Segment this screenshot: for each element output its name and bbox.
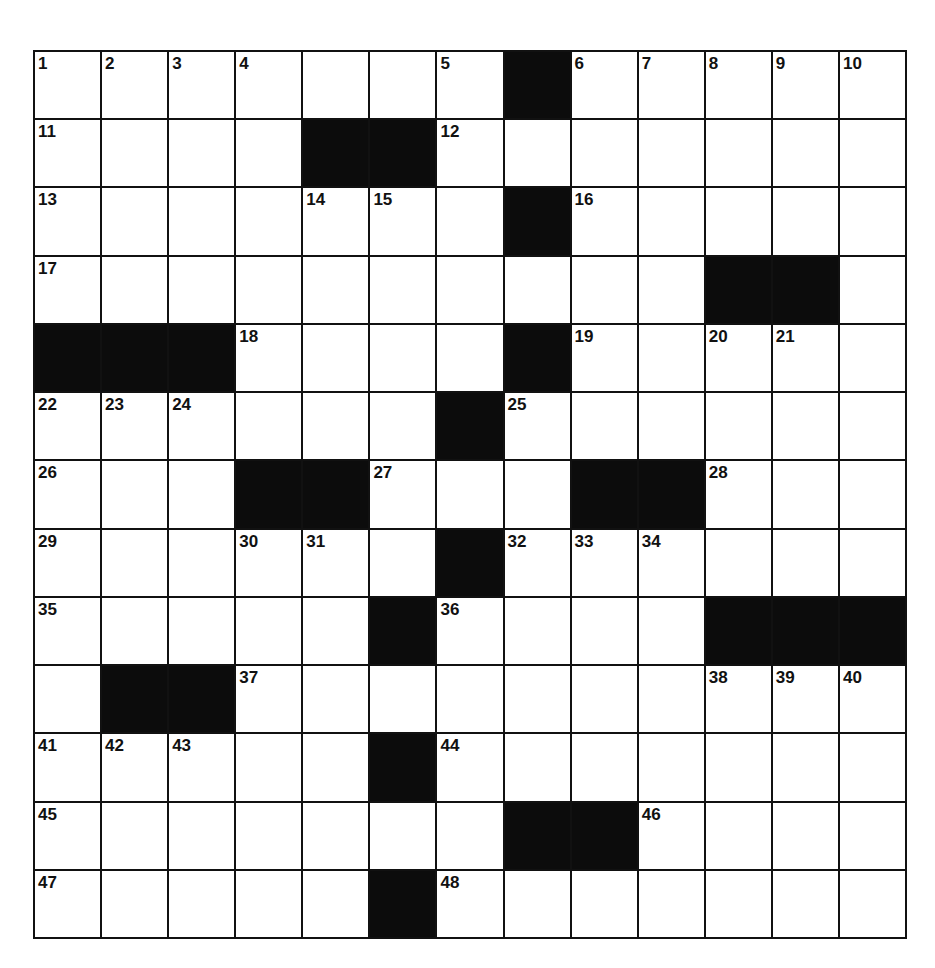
crossword-cell[interactable]: 33: [572, 530, 637, 596]
crossword-cell[interactable]: [773, 530, 838, 596]
crossword-cell[interactable]: [236, 871, 301, 937]
crossword-cell[interactable]: 18: [236, 325, 301, 391]
crossword-cell[interactable]: 24: [169, 393, 234, 459]
crossword-cell[interactable]: [437, 188, 502, 254]
crossword-cell[interactable]: [572, 666, 637, 732]
crossword-cell[interactable]: 20: [706, 325, 771, 391]
crossword-cell[interactable]: [102, 598, 167, 664]
crossword-cell[interactable]: 38: [706, 666, 771, 732]
crossword-cell[interactable]: 44: [437, 734, 502, 800]
crossword-cell[interactable]: [505, 257, 570, 323]
crossword-cell[interactable]: [505, 598, 570, 664]
crossword-cell[interactable]: [706, 803, 771, 869]
crossword-cell[interactable]: [102, 188, 167, 254]
crossword-cell[interactable]: [236, 393, 301, 459]
crossword-cell[interactable]: 48: [437, 871, 502, 937]
crossword-cell[interactable]: [303, 666, 368, 732]
crossword-cell[interactable]: [505, 461, 570, 527]
crossword-cell[interactable]: [706, 530, 771, 596]
crossword-cell[interactable]: [840, 188, 905, 254]
crossword-cell[interactable]: 14: [303, 188, 368, 254]
crossword-cell[interactable]: 39: [773, 666, 838, 732]
crossword-cell[interactable]: 6: [572, 52, 637, 118]
crossword-cell[interactable]: 35: [35, 598, 100, 664]
crossword-cell[interactable]: 15: [370, 188, 435, 254]
crossword-cell[interactable]: [236, 598, 301, 664]
crossword-cell[interactable]: [840, 871, 905, 937]
crossword-cell[interactable]: [35, 666, 100, 732]
crossword-cell[interactable]: [303, 734, 368, 800]
crossword-cell[interactable]: 3: [169, 52, 234, 118]
crossword-cell[interactable]: [102, 461, 167, 527]
crossword-cell[interactable]: [572, 120, 637, 186]
crossword-cell[interactable]: [437, 325, 502, 391]
crossword-cell[interactable]: [437, 666, 502, 732]
crossword-cell[interactable]: 42: [102, 734, 167, 800]
crossword-cell[interactable]: [639, 871, 704, 937]
crossword-cell[interactable]: [169, 803, 234, 869]
crossword-cell[interactable]: 28: [706, 461, 771, 527]
crossword-cell[interactable]: [370, 257, 435, 323]
crossword-cell[interactable]: [572, 871, 637, 937]
crossword-cell[interactable]: 11: [35, 120, 100, 186]
crossword-cell[interactable]: [303, 257, 368, 323]
crossword-cell[interactable]: [303, 325, 368, 391]
crossword-cell[interactable]: [639, 393, 704, 459]
crossword-cell[interactable]: 9: [773, 52, 838, 118]
crossword-cell[interactable]: [370, 325, 435, 391]
crossword-cell[interactable]: 13: [35, 188, 100, 254]
crossword-cell[interactable]: [370, 803, 435, 869]
crossword-cell[interactable]: [572, 598, 637, 664]
crossword-cell[interactable]: 30: [236, 530, 301, 596]
crossword-cell[interactable]: [169, 530, 234, 596]
crossword-cell[interactable]: 46: [639, 803, 704, 869]
crossword-cell[interactable]: 12: [437, 120, 502, 186]
crossword-cell[interactable]: 5: [437, 52, 502, 118]
crossword-cell[interactable]: [236, 120, 301, 186]
crossword-cell[interactable]: 41: [35, 734, 100, 800]
crossword-cell[interactable]: 19: [572, 325, 637, 391]
crossword-cell[interactable]: [773, 461, 838, 527]
crossword-cell[interactable]: [169, 257, 234, 323]
crossword-cell[interactable]: [840, 393, 905, 459]
crossword-cell[interactable]: [505, 734, 570, 800]
crossword-cell[interactable]: [236, 257, 301, 323]
crossword-cell[interactable]: [505, 666, 570, 732]
crossword-cell[interactable]: [437, 257, 502, 323]
crossword-cell[interactable]: [706, 188, 771, 254]
crossword-cell[interactable]: [773, 734, 838, 800]
crossword-cell[interactable]: [303, 803, 368, 869]
crossword-cell[interactable]: [437, 803, 502, 869]
crossword-cell[interactable]: [840, 120, 905, 186]
crossword-cell[interactable]: [639, 325, 704, 391]
crossword-cell[interactable]: [773, 120, 838, 186]
crossword-cell[interactable]: [370, 393, 435, 459]
crossword-cell[interactable]: [102, 120, 167, 186]
crossword-cell[interactable]: 45: [35, 803, 100, 869]
crossword-cell[interactable]: [303, 871, 368, 937]
crossword-cell[interactable]: 4: [236, 52, 301, 118]
crossword-cell[interactable]: 22: [35, 393, 100, 459]
crossword-cell[interactable]: [169, 598, 234, 664]
crossword-cell[interactable]: 16: [572, 188, 637, 254]
crossword-cell[interactable]: [303, 52, 368, 118]
crossword-cell[interactable]: [840, 530, 905, 596]
crossword-cell[interactable]: [706, 734, 771, 800]
crossword-cell[interactable]: [505, 120, 570, 186]
crossword-cell[interactable]: 47: [35, 871, 100, 937]
crossword-cell[interactable]: 26: [35, 461, 100, 527]
crossword-cell[interactable]: [773, 393, 838, 459]
crossword-cell[interactable]: 31: [303, 530, 368, 596]
crossword-cell[interactable]: [706, 120, 771, 186]
crossword-cell[interactable]: [773, 803, 838, 869]
crossword-cell[interactable]: [169, 871, 234, 937]
crossword-cell[interactable]: 7: [639, 52, 704, 118]
crossword-cell[interactable]: [840, 325, 905, 391]
crossword-cell[interactable]: 1: [35, 52, 100, 118]
crossword-cell[interactable]: [102, 803, 167, 869]
crossword-cell[interactable]: [102, 257, 167, 323]
crossword-cell[interactable]: 2: [102, 52, 167, 118]
crossword-cell[interactable]: 29: [35, 530, 100, 596]
crossword-cell[interactable]: 40: [840, 666, 905, 732]
crossword-cell[interactable]: [639, 188, 704, 254]
